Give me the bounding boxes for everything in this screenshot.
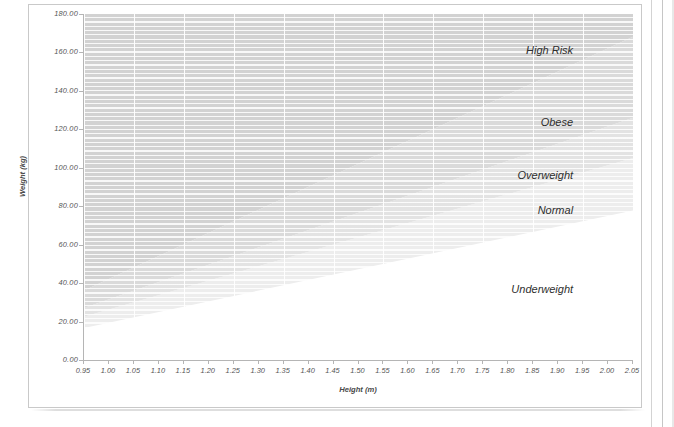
x-tick-mark — [632, 361, 633, 364]
x-tick-mark — [233, 361, 234, 364]
bmi-chart: High RiskObeseOverweightNormalUnderweigh… — [0, 0, 674, 427]
x-axis-title: Height (m) — [0, 385, 674, 394]
x-tick-mark — [507, 361, 508, 364]
x-tick-mark — [158, 361, 159, 364]
x-tick-label: 2.05 — [612, 366, 652, 375]
x-tick-mark — [208, 361, 209, 364]
x-axis-tick-labels: 0.951.001.051.101.151.201.251.301.351.40… — [0, 0, 674, 427]
x-tick-mark — [108, 361, 109, 364]
x-tick-mark — [432, 361, 433, 364]
x-tick-mark — [358, 361, 359, 364]
x-tick-mark — [482, 361, 483, 364]
x-tick-mark — [308, 361, 309, 364]
x-tick-mark — [382, 361, 383, 364]
x-tick-mark — [258, 361, 259, 364]
x-tick-mark — [532, 361, 533, 364]
y-axis-title: Weight (kg) — [18, 137, 27, 217]
x-tick-mark — [607, 361, 608, 364]
x-tick-mark — [133, 361, 134, 364]
x-tick-mark — [83, 361, 84, 364]
x-tick-mark — [557, 361, 558, 364]
x-tick-mark — [457, 361, 458, 364]
x-tick-mark — [283, 361, 284, 364]
x-tick-mark — [183, 361, 184, 364]
x-tick-mark — [333, 361, 334, 364]
x-tick-mark — [582, 361, 583, 364]
x-tick-mark — [407, 361, 408, 364]
